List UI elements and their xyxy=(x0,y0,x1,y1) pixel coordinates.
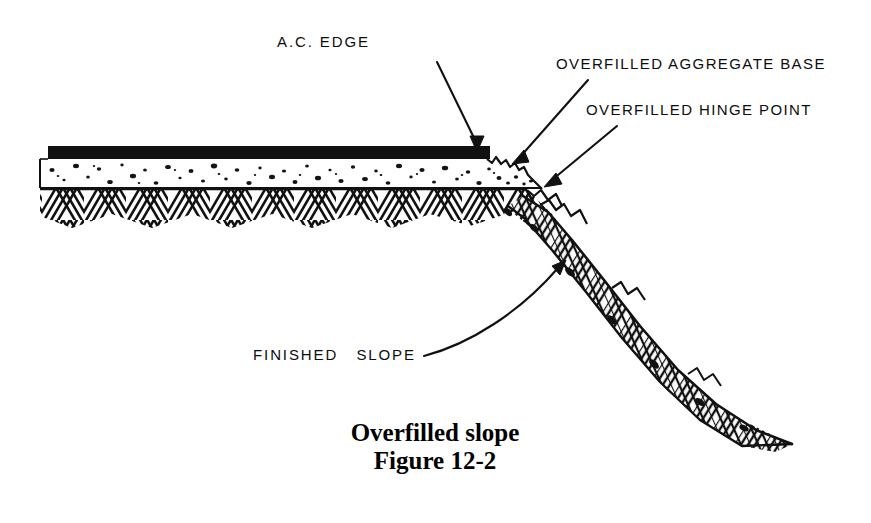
label-overfilled-aggregate-base: OVERFILLED AGGREGATE BASE xyxy=(556,55,826,72)
aggregate-base-layer xyxy=(40,157,542,189)
asphalt-concrete-layer xyxy=(48,146,490,159)
label-overfilled-hinge-point: OVERFILLED HINGE POINT xyxy=(586,101,812,118)
label-finished-slope: FINISHED SLOPE xyxy=(253,346,416,363)
label-ac-edge: A.C. EDGE xyxy=(277,33,370,50)
overfilled-slope-diagram: A.C. EDGE OVERFILLED AGGREGATE BASE OVER… xyxy=(0,0,871,523)
figure-caption-title: Overfilled slope xyxy=(351,419,520,446)
figure-page: A.C. EDGE OVERFILLED AGGREGATE BASE OVER… xyxy=(0,0,871,523)
figure-caption-number: Figure 12-2 xyxy=(374,447,496,474)
